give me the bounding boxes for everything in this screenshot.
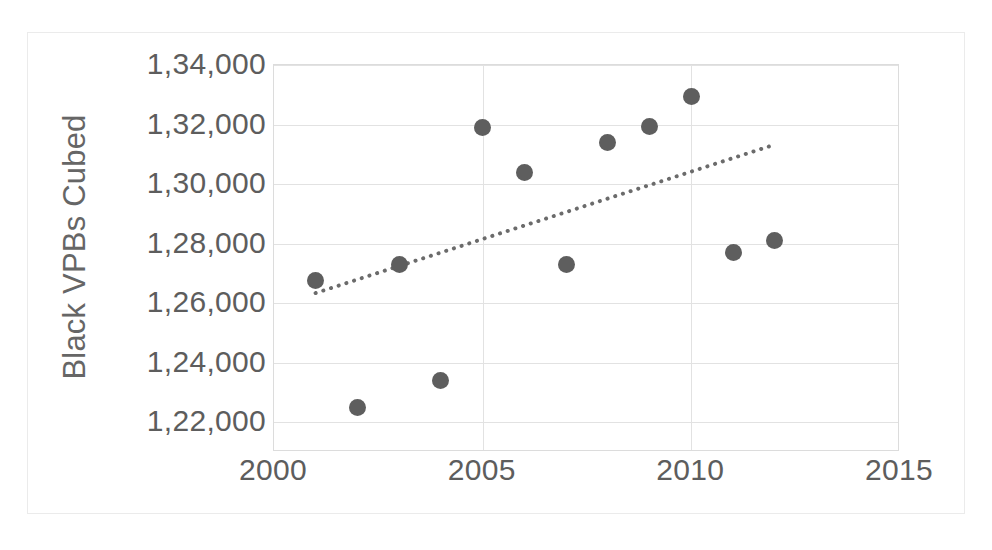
- y-axis-tick-labels: 1,22,0001,24,0001,26,0001,28,0001,30,000…: [88, 33, 266, 515]
- data-point[interactable]: [641, 118, 658, 135]
- data-point[interactable]: [558, 256, 575, 273]
- plot-area: [273, 64, 899, 451]
- x-tick-label: 2000: [239, 453, 307, 487]
- data-point[interactable]: [391, 256, 408, 273]
- y-tick-label: 1,34,000: [88, 47, 266, 81]
- y-tick-label: 1,22,000: [88, 404, 266, 438]
- chart-figure: Black VPBs Cubed 1,22,0001,24,0001,26,00…: [27, 32, 965, 514]
- y-tick-label: 1,32,000: [88, 107, 266, 141]
- trendline: [274, 65, 898, 450]
- x-axis-tick-labels: 2000200520102015: [273, 453, 899, 499]
- data-point[interactable]: [349, 399, 366, 416]
- x-tick-label: 2015: [865, 453, 933, 487]
- y-tick-label: 1,26,000: [88, 285, 266, 319]
- data-point[interactable]: [516, 164, 533, 181]
- x-tick-label: 2005: [448, 453, 516, 487]
- y-tick-label: 1,24,000: [88, 345, 266, 379]
- y-tick-label: 1,28,000: [88, 226, 266, 260]
- data-point[interactable]: [683, 88, 700, 105]
- data-point[interactable]: [725, 244, 742, 261]
- y-tick-label: 1,30,000: [88, 166, 266, 200]
- trendline-path: [316, 146, 769, 293]
- x-tick-label: 2010: [656, 453, 724, 487]
